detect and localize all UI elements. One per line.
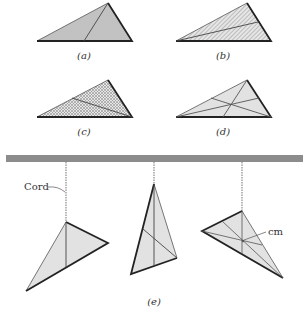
cord-leader-line	[48, 187, 65, 192]
label-b: (b)	[216, 50, 230, 61]
panel-e: Cord cm (e)	[6, 155, 303, 307]
center-of-mass-point	[242, 240, 244, 242]
support-bar	[6, 155, 303, 162]
panel-b: (b)	[176, 3, 271, 61]
label-e: (e)	[147, 296, 161, 307]
panel-d: (d)	[176, 80, 271, 137]
triangle-c	[37, 80, 132, 117]
triangle-a	[37, 3, 132, 41]
cm-label: cm	[268, 226, 284, 237]
cord-label: Cord	[24, 181, 49, 192]
hanging-triangle-left	[26, 222, 108, 291]
label-c: (c)	[77, 126, 91, 137]
panel-c: (c)	[37, 80, 132, 137]
panel-a: (a)	[37, 3, 132, 61]
center-of-mass-diagram: (a) (b) (c) (d) Cord	[0, 0, 308, 314]
label-d: (d)	[216, 126, 230, 137]
hanging-triangle-right	[202, 211, 283, 278]
label-a: (a)	[77, 50, 91, 61]
